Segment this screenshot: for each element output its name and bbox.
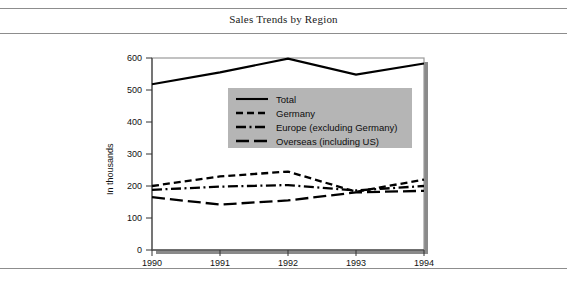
top-rule	[0, 8, 567, 9]
y-tick-label: 200	[127, 181, 142, 191]
x-tick-label: 1992	[278, 258, 298, 266]
x-tick-label: 1993	[346, 258, 366, 266]
y-tick-labels: 600 500 400 300 200 100 0	[127, 53, 142, 255]
y-tick-label: 500	[127, 85, 142, 95]
y-tick-label: 300	[127, 149, 142, 159]
bottom-rule	[0, 268, 567, 269]
x-tick-labels: 1990 1991 1992 1993 1994	[142, 258, 434, 266]
figure-title: Sales Trends by Region	[0, 13, 567, 25]
y-tick-label: 100	[127, 213, 142, 223]
x-tick-label: 1990	[142, 258, 162, 266]
y-axis-title: In thousands	[105, 143, 115, 195]
title-rule	[0, 33, 567, 34]
y-tick-label: 0	[137, 245, 142, 255]
plot-background	[152, 58, 424, 250]
y-tick-label: 600	[127, 53, 142, 63]
x-tick-label: 1991	[210, 258, 230, 266]
chart-figure: 600 500 400 300 200 100 0 In thousands 1…	[0, 40, 567, 266]
legend-label: Europe (excluding Germany)	[276, 122, 397, 133]
legend-label: Overseas (including US)	[276, 136, 379, 147]
x-tick-label: 1994	[414, 258, 434, 266]
legend-label: Total	[276, 94, 296, 105]
y-ticks	[146, 58, 152, 250]
figure-page: Sales Trends by Region	[0, 0, 567, 284]
y-tick-label: 400	[127, 117, 142, 127]
line-chart: 600 500 400 300 200 100 0 In thousands 1…	[0, 40, 567, 266]
legend-label: Germany	[276, 108, 315, 119]
